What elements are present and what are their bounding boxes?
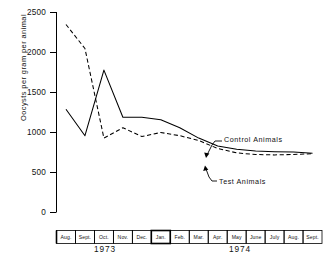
month-label-nov: Nov.: [113, 232, 132, 242]
month-label-jan: Jan.: [151, 232, 170, 242]
control-annotation-arrowhead: [204, 153, 209, 158]
month-label-feb: Feb.: [170, 232, 189, 242]
month-label-aug: Aug.: [57, 232, 76, 242]
legend-label-control-animals: Control Animals: [224, 135, 283, 144]
test-annotation-arrow-shaft: [206, 169, 209, 177]
plot-area: [0, 0, 332, 263]
year-label-1974: 1974: [215, 244, 265, 254]
year-label-1973: 1973: [80, 244, 130, 254]
test-annotation-leader: [209, 177, 217, 181]
month-label-may: May: [227, 232, 246, 242]
month-label-aug: Aug.: [284, 232, 303, 242]
axes: [50, 12, 57, 213]
chart-figure: Oocysts per gram per animal 2500 2000 15…: [0, 0, 332, 263]
month-label-dec: Dec.: [132, 232, 151, 242]
month-label-mar: Mar.: [189, 232, 208, 242]
month-label-apr: Apr.: [208, 232, 227, 242]
month-label-july: July: [265, 232, 284, 242]
test-annotation-arrowhead: [203, 166, 208, 172]
month-label-oct: Oct.: [94, 232, 113, 242]
legend-label-test-animals: Test Animals: [219, 177, 266, 186]
month-label-sept: Sept.: [75, 232, 94, 242]
month-label-june: June: [246, 232, 265, 242]
month-label-sept: Sept.: [303, 232, 322, 242]
